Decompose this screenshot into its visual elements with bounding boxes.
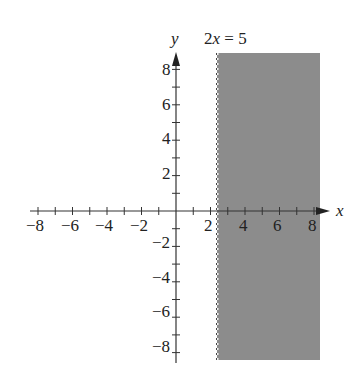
equation-label: 2x = 5 <box>204 29 247 48</box>
x-tick-label: 8 <box>308 216 317 235</box>
y-tick-label: 8 <box>162 60 171 79</box>
equation-text: 2x = 5 <box>204 29 247 48</box>
x-axis-arrow-icon <box>316 207 330 215</box>
shaded-region <box>217 53 320 360</box>
y-axis-label: y <box>169 29 179 48</box>
x-tick-label: −2 <box>130 216 148 235</box>
y-tick-label: 2 <box>162 164 171 183</box>
x-tick-label: 6 <box>273 216 282 235</box>
x-tick-label: −6 <box>61 216 79 235</box>
y-axis-arrow-icon <box>172 52 180 66</box>
y-tick-label: −2 <box>152 233 170 252</box>
inequality-graph: −8 −6 −4 −2 2 4 6 8 8 6 4 2 −2 −4 −6 −8 … <box>0 0 363 385</box>
y-tick-label: −4 <box>152 268 171 287</box>
y-tick-label: 4 <box>162 129 171 148</box>
x-tick-label: −4 <box>95 216 114 235</box>
y-tick-label: 6 <box>162 95 171 114</box>
x-tick-label: 4 <box>239 216 248 235</box>
y-tick-label: −6 <box>152 302 170 321</box>
x-tick-label: −8 <box>26 216 44 235</box>
y-tick-label: −8 <box>152 337 170 356</box>
x-axis-label: x <box>335 201 344 220</box>
x-tick-label: 2 <box>204 216 213 235</box>
